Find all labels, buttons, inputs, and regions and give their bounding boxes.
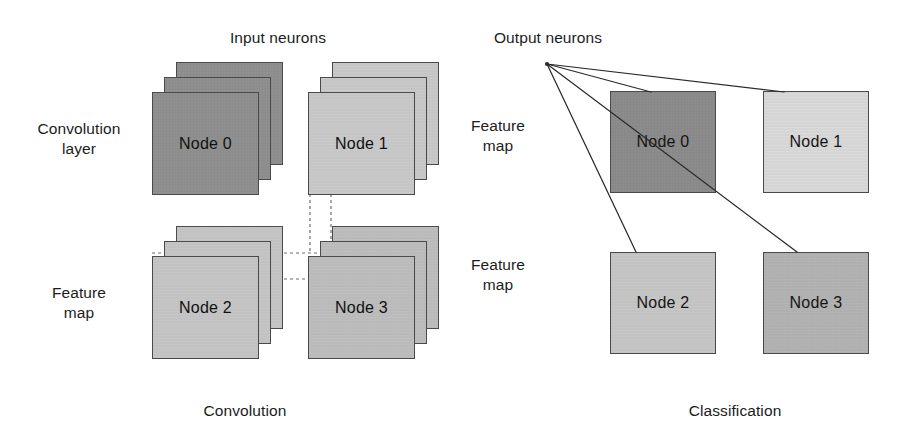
input-neurons-label: Input neurons <box>188 28 368 47</box>
conv-node-0-sheet-front <box>152 92 259 195</box>
convolution-caption: Convolution <box>155 401 335 420</box>
cls-node-0-square[interactable]: Node 0 <box>610 91 716 193</box>
connector-to-node-0 <box>547 64 651 92</box>
cls-node-1-square[interactable]: Node 1 <box>763 91 869 193</box>
classification-caption: Classification <box>645 401 825 420</box>
cls-node-2-square[interactable]: Node 2 <box>610 252 716 354</box>
output-neurons-label: Output neurons <box>458 28 638 47</box>
cls-node-3-square[interactable]: Node 3 <box>763 252 869 354</box>
conv-node-2-sheet-front <box>152 256 259 359</box>
cnn-architecture-diagram: Input neurons Output neurons Convolution… <box>0 0 906 438</box>
conv-node-1-stack[interactable]: Node 1 <box>308 62 468 222</box>
cls-node-0-label: Node 0 <box>637 133 690 151</box>
output-neuron-point <box>545 62 549 66</box>
conv-node-3-stack[interactable]: Node 3 <box>308 226 468 386</box>
cls-node-2-label: Node 2 <box>637 294 690 312</box>
conv-node-1-sheet-front <box>308 92 415 195</box>
connector-to-node-1 <box>547 64 784 92</box>
cls-node-1-label: Node 1 <box>790 133 843 151</box>
convolution-layer-label: Convolution layer <box>8 119 150 159</box>
conv-node-0-stack[interactable]: Node 0 <box>152 62 312 222</box>
cls-node-3-label: Node 3 <box>790 294 843 312</box>
feature-map-label-left: Feature map <box>8 283 150 323</box>
conv-node-2-stack[interactable]: Node 2 <box>152 226 312 386</box>
conv-node-3-sheet-front <box>308 256 415 359</box>
